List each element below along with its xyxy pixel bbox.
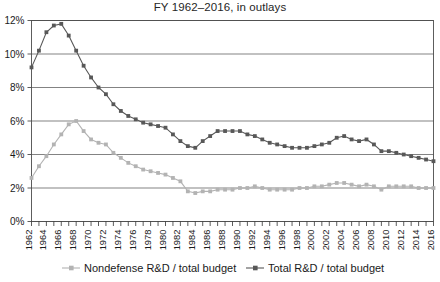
series-marker <box>119 109 123 113</box>
series-marker <box>97 141 101 145</box>
series-marker <box>52 143 56 147</box>
series-marker <box>238 186 242 190</box>
series-marker <box>37 164 41 168</box>
x-tick-label: 1998 <box>291 230 302 251</box>
legend-label-1: Total R&D / total budget <box>268 262 384 274</box>
series-marker <box>372 143 376 147</box>
series-marker <box>52 24 56 28</box>
series-marker <box>424 186 428 190</box>
series-marker <box>320 184 324 188</box>
x-tick-label: 2014 <box>410 230 421 251</box>
series-marker <box>208 134 212 138</box>
x-tick-label: 2008 <box>365 230 376 251</box>
y-gridlines <box>28 21 434 222</box>
series-marker <box>134 117 138 121</box>
series-marker <box>417 156 421 160</box>
x-tick-label: 1964 <box>37 230 48 251</box>
series-marker <box>178 139 182 143</box>
series-marker <box>111 151 115 155</box>
series-marker <box>164 126 168 130</box>
y-tick-label: 8% <box>10 82 25 93</box>
y-tick-label: 6% <box>10 116 25 127</box>
series-marker <box>312 184 316 188</box>
series-marker <box>298 186 302 190</box>
x-tick-label: 1986 <box>201 230 212 251</box>
series-marker <box>156 124 160 128</box>
series-marker <box>335 136 339 140</box>
series-marker <box>327 141 331 145</box>
x-tick-label: 1966 <box>52 230 63 251</box>
series-marker <box>283 144 287 148</box>
x-tick-label: 2000 <box>305 230 316 251</box>
series-marker <box>305 186 309 190</box>
series-marker <box>379 149 383 153</box>
series-marker <box>89 138 93 142</box>
y-tick-label: 2% <box>10 183 25 194</box>
series-marker <box>245 133 249 137</box>
series-marker <box>432 186 436 190</box>
x-tick-label: 1984 <box>186 230 197 251</box>
series-marker <box>223 129 227 133</box>
series-marker <box>30 66 34 70</box>
chart-container: FY 1962–2016, in outlays 0%2%4%6%8%10%12… <box>0 0 440 282</box>
series-marker <box>156 171 160 175</box>
data-series-layer <box>30 22 436 195</box>
x-tick-label: 1980 <box>157 230 168 251</box>
series-marker <box>238 129 242 133</box>
series-marker <box>59 22 63 26</box>
series-marker <box>193 191 197 195</box>
x-tick-label: 2006 <box>350 230 361 251</box>
series-marker <box>193 146 197 150</box>
series-marker <box>283 188 287 192</box>
series-marker <box>30 176 34 180</box>
series-marker <box>365 183 369 187</box>
x-tick-label: 2012 <box>395 230 406 251</box>
series-marker <box>298 146 302 150</box>
series-marker <box>372 184 376 188</box>
chart-legend: Nondefense R&D / total budgetTotal R&D /… <box>62 262 384 274</box>
legend-marker-1 <box>253 266 258 271</box>
y-tick-label: 12% <box>4 15 24 26</box>
series-marker <box>357 139 361 143</box>
series-marker <box>126 114 130 118</box>
series-marker <box>104 92 108 96</box>
x-tick-label: 2002 <box>320 230 331 251</box>
series-marker <box>253 134 257 138</box>
series-marker <box>387 149 391 153</box>
series-marker <box>342 181 346 185</box>
series-marker <box>231 188 235 192</box>
series-marker <box>104 143 108 147</box>
series-marker <box>260 186 264 190</box>
x-tick-label: 1988 <box>216 230 227 251</box>
series-marker <box>149 169 153 173</box>
series-marker <box>260 138 264 142</box>
chart-plot-area: 0%2%4%6%8%10%12% 19621964196619681970197… <box>0 0 440 282</box>
series-marker <box>216 129 220 133</box>
series-marker <box>417 186 421 190</box>
x-tick-label: 2004 <box>335 230 346 251</box>
series-marker <box>305 146 309 150</box>
series-marker <box>134 164 138 168</box>
x-tick-label: 1970 <box>82 230 93 251</box>
series-marker <box>141 121 145 125</box>
series-marker <box>424 158 428 162</box>
series-marker <box>126 161 130 165</box>
series-marker <box>67 122 71 126</box>
series-marker <box>37 49 41 53</box>
series-marker <box>208 189 212 193</box>
series-marker <box>320 143 324 147</box>
series-marker <box>268 188 272 192</box>
series-marker <box>245 186 249 190</box>
series-marker <box>201 189 205 193</box>
series-marker <box>141 168 145 172</box>
series-marker <box>275 188 279 192</box>
series-marker <box>409 184 413 188</box>
series-marker <box>149 122 153 126</box>
series-marker <box>119 156 123 160</box>
x-tick-label: 1962 <box>23 230 34 251</box>
series-marker <box>231 129 235 133</box>
series-marker <box>74 119 78 123</box>
series-marker <box>216 188 220 192</box>
series-marker <box>409 154 413 158</box>
series-marker <box>402 184 406 188</box>
